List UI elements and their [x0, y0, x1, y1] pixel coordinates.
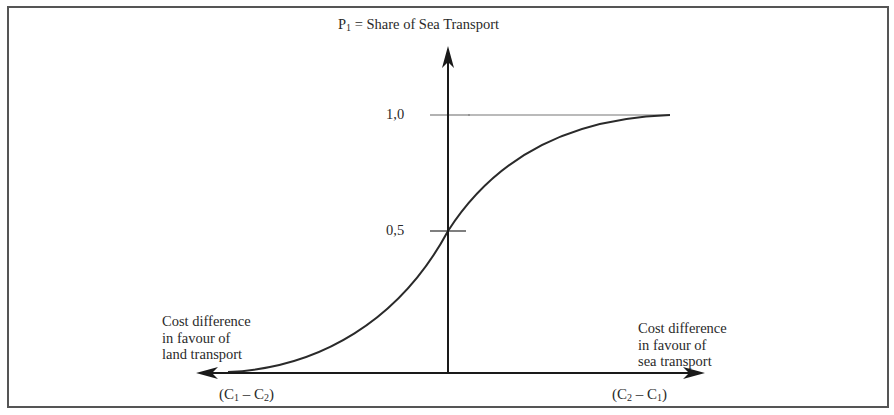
left-note-line-3: land transport — [162, 346, 251, 363]
tick-label-1-0: 1,0 — [386, 106, 404, 123]
sea-transport-note: Cost difference in favour of sea transpo… — [638, 320, 727, 370]
diagram-canvas — [0, 0, 894, 415]
left-note-line-2: in favour of — [162, 330, 251, 347]
tick-label-0-5: 0,5 — [386, 222, 404, 239]
right-note-line-3: sea transport — [638, 353, 727, 370]
y-axis-label: P1 = Share of Sea Transport — [338, 16, 499, 36]
x-axis-left-label: (C1 – C2) — [219, 386, 274, 406]
left-note-line-1: Cost difference — [162, 313, 251, 330]
land-transport-note: Cost difference in favour of land transp… — [162, 313, 251, 363]
right-note-line-2: in favour of — [638, 337, 727, 354]
right-note-line-1: Cost difference — [638, 320, 727, 337]
x-axis-right-label: (C2 – C1) — [612, 386, 667, 406]
